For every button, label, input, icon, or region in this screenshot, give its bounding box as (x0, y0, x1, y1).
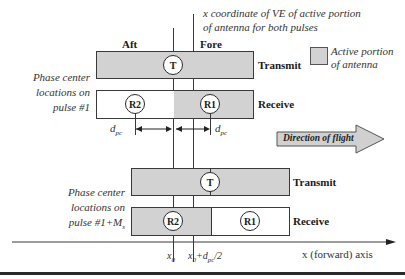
dpc-right-label: dpc (215, 122, 227, 137)
caption-line-1: x coordinate of VE of active portion (203, 6, 361, 20)
x-axis (12, 237, 397, 247)
pulse1-transmit-label: Transmit (258, 59, 301, 71)
pulse2-t-marker: T (200, 172, 220, 192)
fore-label: Fore (200, 38, 222, 50)
legend-text: Active portion of antenna (331, 45, 394, 71)
pulse1-side-label: Phase center locations on pulse #1 (0, 70, 90, 115)
x0-half-dpc-tick-label: x0+dpc/2 (188, 250, 222, 264)
dpc-left-label: dpc (110, 122, 122, 137)
x-axis-label: x (forward) axis (302, 248, 373, 260)
legend-swatch (310, 47, 328, 65)
aft-label: Aft (122, 38, 137, 50)
dpc-arrows (130, 122, 220, 136)
caption-line-2: of antenna for both pulses (203, 20, 361, 34)
pulse2-r2-marker: R2 (163, 211, 183, 231)
pulse1-receive-label: Receive (258, 98, 294, 110)
pulse1-r1-marker: R1 (200, 94, 220, 114)
caption: x coordinate of VE of active portion of … (203, 6, 361, 34)
pulse2-transmit-label: Transmit (293, 176, 336, 188)
direction-of-flight-label: Direction of flight (283, 133, 354, 143)
pulse1-r2-marker: R2 (125, 94, 145, 114)
pulse2-r1-marker: R1 (240, 211, 260, 231)
bottom-border (0, 272, 405, 275)
x0-tick-label: x0 (167, 250, 175, 264)
pulse2-side-label: Phase center locations on pulse #1+Ms (15, 185, 125, 235)
pulse2-receive-label: Receive (293, 215, 329, 227)
pulse1-t-marker: T (163, 55, 183, 75)
